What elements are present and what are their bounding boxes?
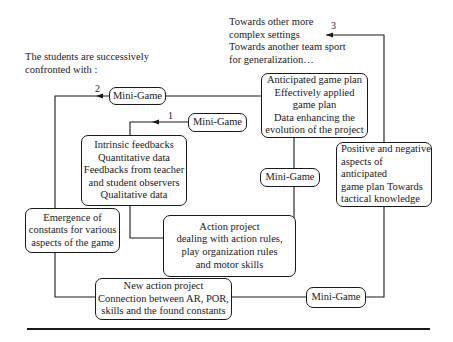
bottom-rule <box>27 328 430 330</box>
node-intrinsic-feedbacks: Intrinsic feedbacks Quantitative data Fe… <box>81 135 187 206</box>
loop-label-2: 2 <box>95 84 100 94</box>
node-anticipated-plan: Anticipated game plan Effectively applie… <box>261 73 368 138</box>
top-note: Towards other more complex settings Towa… <box>229 16 346 66</box>
node-mini-game-bottom: Mini-Game <box>306 287 366 308</box>
node-action-project: Action project dealing with action rules… <box>163 215 296 277</box>
loop-label-1: 1 <box>168 111 173 121</box>
node-new-action-project: New action project Connection between AR… <box>95 278 232 320</box>
node-positive-negative: Positive and negative aspects of anticip… <box>336 142 432 207</box>
node-mini-game-1: Mini-Game <box>188 113 247 132</box>
node-emergence-constants: Emergence of constants for various aspec… <box>25 208 120 253</box>
intro-text: The students are successively confronted… <box>25 51 149 76</box>
loop-label-3: 3 <box>331 21 336 31</box>
node-mini-game-top: Mini-Game <box>109 87 166 105</box>
node-mini-game-middle: Mini-Game <box>260 168 320 187</box>
